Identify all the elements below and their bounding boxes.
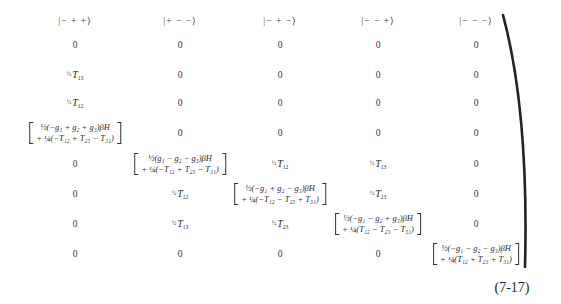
matrix-entry-zero: 0 <box>278 71 283 81</box>
matrix-entry-zero: 0 <box>474 190 479 200</box>
left-bracket <box>29 122 33 144</box>
matrix-entry-zero: 0 <box>474 220 479 230</box>
right-bracket <box>117 122 121 144</box>
matrix-entry-zero: 0 <box>73 250 78 260</box>
subscript: 13 <box>183 224 189 230</box>
matrix-entry-zero: 0 <box>178 99 183 109</box>
diagonal-line-1: ½(−g₁ + g₂ − g₃)βH <box>245 183 315 194</box>
fraction-half: ½ <box>370 160 375 166</box>
diagonal-line-2: + ¼(T₁₂ − T₂₃ − T₃₁) <box>342 224 414 235</box>
subscript: 23 <box>381 194 387 200</box>
right-bracket <box>417 213 421 235</box>
matrix-entry-half-t12: ½T12 <box>67 98 84 110</box>
matrix-entry-half-t23: ½T23 <box>272 219 289 231</box>
matrix-entry-diagonal-3: ½(−g₁ + g₂ − g₃)βH + ¼(−T₁₂ − T₂₃ + T₃₁) <box>231 183 329 207</box>
right-bracket <box>222 153 226 175</box>
matrix-entry-zero: 0 <box>73 190 78 200</box>
matrix-entry-half-t13: ½T13 <box>67 70 84 82</box>
fraction-half: ½ <box>67 71 72 77</box>
subscript: 12 <box>78 103 84 109</box>
matrix-entry-diagonal-4: ½(−g₁ − g₂ + g₃)βH + ¼(T₁₂ − T₂₃ − T₃₁) <box>332 213 424 237</box>
fraction-half: ½ <box>172 190 177 196</box>
matrix-entry-diagonal-2: ½(g₁ − g₂ − g₃)βH + ¼(−T₁₂ + T₂₃ − T₃₁) <box>131 153 229 177</box>
column-header-ket-3: |− + −⟩ <box>263 17 296 27</box>
diagonal-line-1: ½(−g₁ − g₂ + g₃)βH <box>343 213 413 224</box>
matrix-entry-zero: 0 <box>474 71 479 81</box>
matrix-entry-zero: 0 <box>178 250 183 260</box>
matrix-entry-zero: 0 <box>376 99 381 109</box>
matrix-entry-zero: 0 <box>376 41 381 51</box>
matrix-entry-diagonal-1: ½(−g₁ + g₂ + g₃)βH + ¼(−T₁₂ + T₂₃ − T₃₁) <box>26 122 124 146</box>
matrix-entry-zero: 0 <box>474 160 479 170</box>
fraction-half: ½ <box>272 160 277 166</box>
matrix-entry-zero: 0 <box>474 99 479 109</box>
diagonal-line-2: + ¼(−T₁₂ + T₂₃ − T₃₁) <box>36 133 114 144</box>
diagonal-line-1: ½(g₁ − g₂ − g₃)βH <box>148 153 212 164</box>
matrix-entry-zero: 0 <box>376 250 381 260</box>
matrix-entry-zero: 0 <box>376 71 381 81</box>
matrix-entry-half-t13: ½T13 <box>370 159 387 171</box>
matrix-entry-half-t23: ½T23 <box>370 189 387 201</box>
left-bracket <box>234 183 238 205</box>
column-header-ket-2: |+ − −⟩ <box>163 17 196 27</box>
matrix-entry-zero: 0 <box>474 129 479 139</box>
matrix-entry-zero: 0 <box>278 129 283 139</box>
left-bracket <box>134 153 138 175</box>
subscript: 12 <box>283 164 289 170</box>
matrix-entry-zero: 0 <box>73 220 78 230</box>
matrix-entry-zero: 0 <box>278 250 283 260</box>
right-bracket <box>322 183 326 205</box>
column-header-ket-5: |− − −⟩ <box>459 17 492 27</box>
matrix-entry-zero: 0 <box>178 41 183 51</box>
matrix-entry-zero: 0 <box>178 129 183 139</box>
matrix-entry-zero: 0 <box>178 71 183 81</box>
matrix-right-parenthesis-icon <box>495 12 555 270</box>
matrix-entry-zero: 0 <box>278 41 283 51</box>
equation-number: (7-17) <box>495 280 530 296</box>
diagonal-line-1: ½(−g₁ + g₂ + g₃)βH <box>40 122 110 133</box>
fraction-half: ½ <box>67 99 72 105</box>
subscript: 13 <box>381 164 387 170</box>
fraction-half: ½ <box>272 220 277 226</box>
matrix-entry-half-t12: ½T12 <box>272 159 289 171</box>
matrix-entry-zero: 0 <box>376 129 381 139</box>
matrix-entry-half-t12: ½T12 <box>172 189 189 201</box>
diagonal-line-2: + ¼(−T₁₂ + T₂₃ − T₃₁) <box>141 164 219 175</box>
matrix-entry-zero: 0 <box>73 41 78 51</box>
column-header-ket-1: |− + +⟩ <box>58 17 91 27</box>
matrix-entry-zero: 0 <box>278 99 283 109</box>
matrix-entry-zero: 0 <box>474 41 479 51</box>
subscript: 23 <box>283 224 289 230</box>
subscript: 12 <box>183 194 189 200</box>
matrix-entry-zero: 0 <box>73 160 78 170</box>
left-bracket <box>433 243 437 265</box>
column-header-ket-4: |− − +⟩ <box>361 17 394 27</box>
left-bracket <box>335 213 339 235</box>
matrix-entry-half-t13: ½T13 <box>172 219 189 231</box>
diagonal-line-2: + ¼(−T₁₂ − T₂₃ + T₃₁) <box>241 194 319 205</box>
subscript: 13 <box>78 75 84 81</box>
fraction-half: ½ <box>370 190 375 196</box>
fraction-half: ½ <box>172 220 177 226</box>
